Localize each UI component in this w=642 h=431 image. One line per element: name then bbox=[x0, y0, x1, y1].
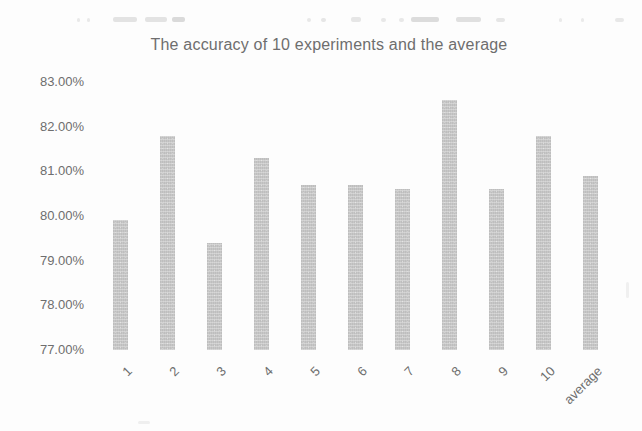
scan-artifact bbox=[87, 18, 90, 22]
scan-artifact bbox=[496, 18, 505, 22]
scan-artifact bbox=[456, 17, 481, 22]
scan-artifact bbox=[145, 17, 167, 22]
y-tick-label: 83.00% bbox=[20, 74, 84, 90]
scan-artifact bbox=[172, 17, 185, 22]
scan-artifact bbox=[307, 18, 311, 22]
plot-area bbox=[97, 82, 614, 350]
scan-artifact bbox=[77, 18, 80, 22]
scan-artifact bbox=[321, 18, 326, 22]
bar-3 bbox=[207, 243, 222, 350]
scan-artifact bbox=[399, 18, 404, 22]
scan-artifact bbox=[113, 17, 137, 22]
y-tick-label: 81.00% bbox=[20, 163, 84, 179]
bar-8 bbox=[442, 100, 457, 350]
y-tick-label: 78.00% bbox=[20, 297, 84, 313]
scan-artifact bbox=[615, 18, 624, 22]
bar-1 bbox=[113, 220, 128, 350]
scan-artifact bbox=[626, 282, 629, 298]
y-tick-label: 79.00% bbox=[20, 253, 84, 269]
bar-7 bbox=[395, 189, 410, 350]
y-tick-label: 82.00% bbox=[20, 119, 84, 135]
bar-4 bbox=[254, 158, 269, 350]
scan-artifact bbox=[411, 17, 439, 22]
bar-5 bbox=[301, 185, 316, 350]
bar-2 bbox=[160, 136, 175, 350]
y-tick-label: 77.00% bbox=[20, 342, 84, 358]
scan-artifact bbox=[581, 18, 584, 22]
bar-average bbox=[583, 176, 598, 350]
bar-10 bbox=[536, 136, 551, 350]
bar-6 bbox=[348, 185, 363, 350]
chart-title: The accuracy of 10 experiments and the a… bbox=[16, 36, 642, 54]
scan-artifact bbox=[559, 18, 562, 22]
y-tick-label: 80.00% bbox=[20, 208, 84, 224]
scan-artifact bbox=[138, 421, 150, 424]
scan-artifact bbox=[381, 18, 386, 22]
bar-9 bbox=[489, 189, 504, 350]
scanned-chart-page: The accuracy of 10 experiments and the a… bbox=[0, 0, 642, 431]
scan-artifact bbox=[351, 17, 361, 22]
